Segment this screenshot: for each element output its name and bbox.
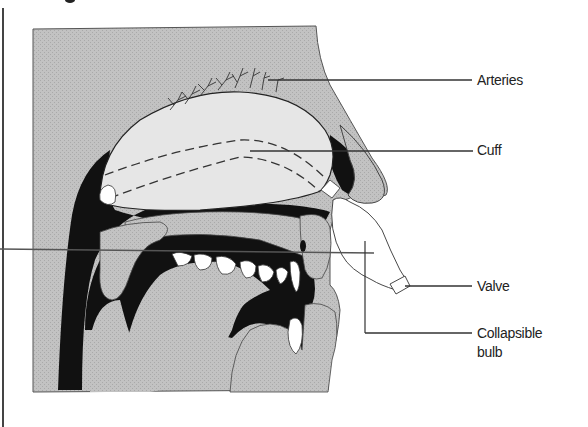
label-collapsible: Collapsible (477, 325, 543, 341)
label-valve: Valve (477, 278, 510, 294)
philtrum-mark (300, 240, 306, 252)
label-bulb: bulb (477, 344, 503, 360)
label-cuff: Cuff (477, 142, 502, 158)
anatomy-diagram: Arteries Cuff Valve Collapsible bulb (0, 0, 588, 427)
cropped-glyph (65, 0, 75, 3)
collapsible-bulb (332, 198, 405, 290)
label-arteries: Arteries (477, 72, 523, 88)
